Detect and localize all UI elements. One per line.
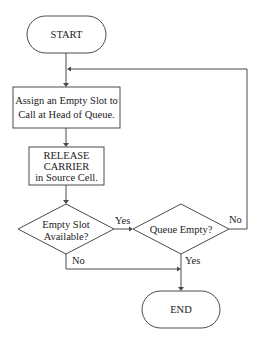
assign-label-line2: Call at Head of Queue. (18, 109, 115, 120)
queue-empty-yes-label: Yes (185, 255, 200, 266)
arrow-head-icon (63, 143, 69, 147)
queue-empty-no-label: No (229, 214, 242, 225)
flowchart: START Assign an Empty Slot to Call at He… (0, 0, 262, 350)
empty-slot-no-label: No (72, 255, 85, 266)
queue-empty-decision: Queue Empty? (133, 204, 229, 254)
arrow-head-icon (177, 267, 181, 272)
assign-label-line1: Assign an Empty Slot to (15, 95, 118, 106)
assign-node: Assign an Empty Slot to Call at Head of … (13, 87, 120, 128)
start-label: START (51, 29, 83, 40)
start-node: START (27, 16, 106, 53)
queue-empty-label: Queue Empty? (150, 224, 213, 235)
arrow-head-icon (178, 287, 184, 291)
release-node: RELEASE CARRIER in Source Cell. (29, 147, 104, 185)
end-node: END (142, 291, 220, 328)
empty-slot-label-line1: Empty Slot (42, 219, 90, 230)
arrow-head-icon (67, 67, 71, 72)
assign-shape (13, 87, 120, 128)
empty-slot-decision: Empty Slot Available? (18, 204, 114, 254)
arrow-head-icon (63, 83, 69, 87)
end-label: END (170, 304, 192, 315)
empty-slot-yes-label: Yes (115, 215, 130, 226)
arrow-head-icon (63, 200, 69, 204)
empty-slot-label-line2: Available? (44, 231, 89, 242)
release-label-line1: RELEASE (43, 150, 89, 161)
release-label-line3: in Source Cell. (35, 172, 98, 183)
release-label-line2: CARRIER (44, 161, 90, 172)
